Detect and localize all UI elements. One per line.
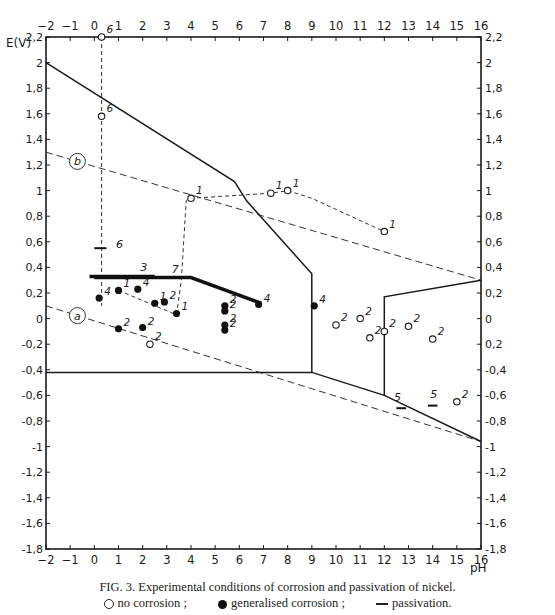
x-tick-label-top: 7 bbox=[260, 19, 267, 33]
point-label: 2 bbox=[230, 317, 237, 329]
x-tick-label-bottom: 10 bbox=[329, 553, 344, 567]
x-tick-label-top: 5 bbox=[212, 19, 219, 33]
y-tick-label-right: -0,6 bbox=[485, 389, 506, 402]
point-label: 2 bbox=[365, 305, 372, 317]
point-label: 4 bbox=[143, 276, 150, 288]
upper-stability-boundary bbox=[46, 63, 312, 373]
lower-horizontal-boundary bbox=[46, 372, 481, 441]
x-tick-label-top: 0 bbox=[91, 19, 98, 33]
y-tick-label-right: -1,4 bbox=[485, 492, 506, 505]
point-label: 1 bbox=[389, 218, 396, 230]
x-tick-label-bottom: 15 bbox=[450, 553, 465, 567]
generalised-corrosion-point bbox=[173, 310, 180, 317]
x-tick-label-top: 6 bbox=[236, 19, 243, 33]
generalised-corrosion-point bbox=[311, 302, 318, 309]
y-tick-label-left: 0,8 bbox=[26, 210, 44, 223]
legend-no-corrosion-label: no corrosion ; bbox=[118, 596, 187, 610]
point-label: 2 bbox=[375, 324, 382, 336]
y-tick-label-right: -1,2 bbox=[485, 466, 506, 479]
y-tick-label-left: 2 bbox=[36, 57, 43, 70]
open-circle-icon bbox=[104, 599, 114, 609]
point-label: 4 bbox=[319, 293, 326, 305]
no-corrosion-point bbox=[98, 113, 104, 119]
y-tick-label-left: 1,8 bbox=[26, 82, 44, 95]
passivation-label: 6 bbox=[116, 238, 123, 251]
point-label: 4 bbox=[264, 292, 271, 304]
y-tick-label-right: 0 bbox=[485, 313, 492, 326]
point-label: 2 bbox=[169, 289, 176, 301]
y-tick-label-left: -1,2 bbox=[22, 466, 43, 479]
point-label: 2 bbox=[438, 325, 445, 337]
reference-label-a: a bbox=[74, 310, 81, 323]
y-tick-label-left: 0,4 bbox=[26, 261, 44, 274]
point-label: 1 bbox=[276, 179, 283, 191]
point-label: 1 bbox=[293, 177, 300, 189]
x-tick-label-bottom: 14 bbox=[425, 553, 440, 567]
x-tick-label-top: 12 bbox=[377, 19, 392, 33]
point-label: 2 bbox=[414, 312, 421, 324]
no-corrosion-point bbox=[367, 335, 373, 341]
generalised-corrosion-point bbox=[161, 298, 168, 305]
legend-no-corrosion: no corrosion ; bbox=[104, 596, 187, 611]
y-tick-label-left: 1,2 bbox=[26, 159, 44, 172]
y-tick-label-right: -0,8 bbox=[485, 415, 506, 428]
y-axis-label: E(V) bbox=[6, 36, 31, 50]
y-tick-label-left: 0 bbox=[36, 313, 43, 326]
y-tick-label-left: -0,4 bbox=[22, 364, 43, 377]
point-label: 2 bbox=[230, 298, 237, 310]
y-tick-label-right: 0,2 bbox=[485, 287, 503, 300]
data-points: 6611112222222241412122222244 bbox=[96, 23, 469, 405]
x-tick-label-top: 9 bbox=[308, 19, 315, 33]
y-tick-label-right: 2,2 bbox=[485, 31, 503, 44]
y-tick-label-right: 0,2 bbox=[485, 338, 503, 351]
experiment-path-1 bbox=[177, 191, 385, 315]
legend-passivation: passivation. bbox=[376, 596, 451, 611]
y-tick-label-left: 1 bbox=[36, 185, 43, 198]
x-tick-label-bottom: 11 bbox=[353, 553, 368, 567]
generalised-corrosion-point bbox=[96, 295, 103, 302]
y-tick-label-right: 0,6 bbox=[485, 236, 503, 249]
generalised-corrosion-point bbox=[221, 327, 228, 334]
x-tick-label-bottom: 8 bbox=[284, 553, 291, 567]
y-tick-label-left: -0,2 bbox=[22, 338, 43, 351]
y-tick-label-left: 1,4 bbox=[26, 133, 44, 146]
y-tick-label-left: 0,6 bbox=[26, 236, 44, 249]
boundary-lines bbox=[46, 63, 481, 442]
point-label: 4 bbox=[104, 285, 111, 297]
point-label: 1 bbox=[124, 277, 131, 289]
point-label: 2 bbox=[155, 330, 162, 342]
reference-label-b: b bbox=[74, 155, 81, 168]
passivation-label: 3 bbox=[140, 261, 147, 274]
passivation-label: 5 bbox=[394, 391, 401, 404]
no-corrosion-point bbox=[357, 315, 363, 321]
x-tick-label-bottom: 5 bbox=[212, 553, 219, 567]
x-tick-label-top: 10 bbox=[329, 19, 344, 33]
reference-line-b bbox=[46, 152, 481, 280]
x-tick-label-bottom: −1 bbox=[62, 553, 79, 567]
y-tick-label-right: -0,4 bbox=[485, 364, 506, 377]
legend-passivation-label: passivation. bbox=[392, 596, 451, 610]
y-tick-label-right: 1,6 bbox=[485, 108, 503, 121]
no-corrosion-point bbox=[147, 341, 153, 347]
y-tick-label-left: -0,6 bbox=[22, 389, 43, 402]
generalised-corrosion-point bbox=[221, 307, 228, 314]
y-tick-label-right: 0,4 bbox=[485, 261, 503, 274]
generalised-corrosion-point bbox=[139, 324, 146, 331]
point-label: 6 bbox=[107, 102, 114, 114]
x-tick-label-bottom: 4 bbox=[187, 553, 194, 567]
x-tick-label-bottom: 9 bbox=[308, 553, 315, 567]
point-label: 2 bbox=[341, 311, 348, 323]
x-tick-label-bottom: 0 bbox=[91, 553, 98, 567]
y-tick-label-right: -1,6 bbox=[485, 517, 506, 530]
generalised-corrosion-point bbox=[151, 300, 158, 307]
x-tick-label-bottom: 2 bbox=[139, 553, 146, 567]
x-tick-label-bottom: 1 bbox=[115, 553, 122, 567]
point-label: 1 bbox=[196, 184, 203, 196]
y-tick-label-right: -1 bbox=[485, 441, 496, 454]
reference-line-a bbox=[46, 306, 481, 442]
y-tick-label-left: -1,8 bbox=[22, 543, 43, 556]
point-label: 2 bbox=[462, 388, 469, 400]
y-tick-label-left: -1,6 bbox=[22, 517, 43, 530]
generalised-corrosion-point bbox=[255, 301, 262, 308]
legend: no corrosion ; generalised corrosion ; p… bbox=[0, 596, 555, 611]
